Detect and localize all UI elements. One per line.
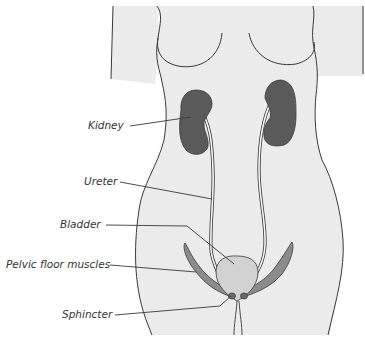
right-sphincter bbox=[241, 293, 248, 299]
left-arm bbox=[111, 6, 160, 84]
right-arm bbox=[313, 6, 364, 76]
label-bladder: Bladder bbox=[60, 219, 101, 230]
label-sphincter: Sphincter bbox=[62, 309, 112, 320]
label-ureter: Ureter bbox=[84, 176, 117, 187]
label-pelvic-floor-muscles: Pelvic floor muscles bbox=[6, 259, 110, 270]
label-kidney: Kidney bbox=[88, 120, 124, 131]
urinary-system-diagram bbox=[0, 0, 365, 363]
left-sphincter bbox=[229, 293, 236, 299]
